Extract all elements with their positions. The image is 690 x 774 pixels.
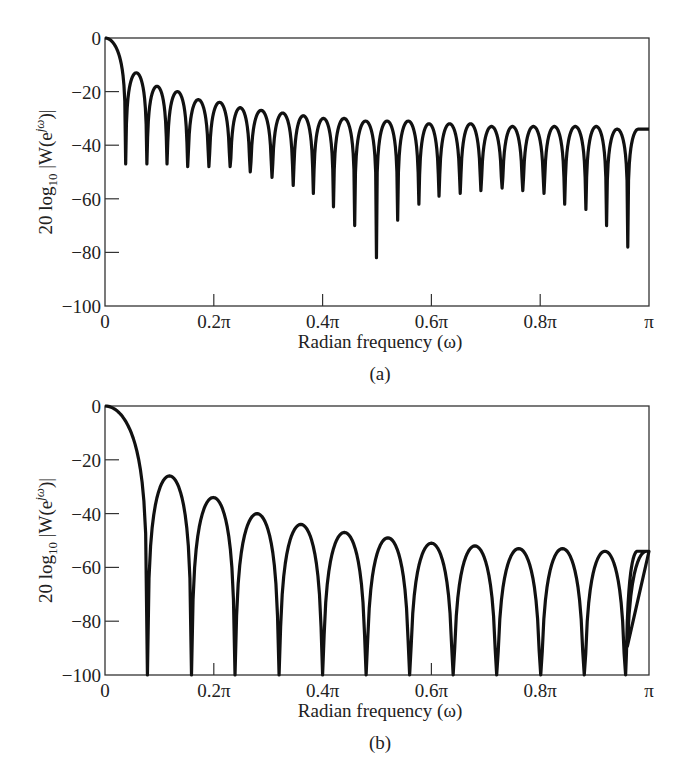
caption-a: (a) <box>369 363 390 385</box>
x-axis-title-a: Radian frequency (ω) <box>298 331 462 353</box>
y-axis-title-a: 20 log10 |W(ejω)| <box>32 109 60 234</box>
x-tick-label: 0.6π <box>415 680 449 701</box>
y-tick-label: −80 <box>71 611 101 632</box>
figure: 20 log10 |W(ejω)| 0−20−40−60−80−100 00.2… <box>0 0 690 774</box>
x-axis-b: 00.2π0.4π0.6π0.8ππ <box>100 663 654 701</box>
x-tick-label: 0 <box>100 311 110 332</box>
y-tick-label: −20 <box>71 82 101 103</box>
x-tick-label: 0 <box>100 680 110 701</box>
y-axis-a: 0−20−40−60−80−100 <box>62 28 119 317</box>
x-tick-label: 0.4π <box>306 680 340 701</box>
x-axis-title-b: Radian frequency (ω) <box>298 700 462 722</box>
y-tick-label: −60 <box>71 557 101 578</box>
chart-panel-b: 20 log10 |W(ejω)| 0−20−40−60−80−100 00.2… <box>32 396 654 754</box>
y-tick-label: −60 <box>71 189 101 210</box>
y-tick-label: −40 <box>71 135 101 156</box>
y-axis-title-text: 20 log10 |W(ejω)| <box>32 109 60 234</box>
x-axis-a: 00.2π0.4π0.6π0.8ππ <box>100 294 654 332</box>
y-tick-label: −100 <box>62 665 101 686</box>
y-tick-label: −80 <box>71 242 101 263</box>
x-tick-label: π <box>644 680 654 701</box>
x-tick-label: 0.6π <box>415 311 449 332</box>
magnitude-curve-b <box>105 406 649 675</box>
x-tick-label: 0.4π <box>306 311 340 332</box>
x-tick-label: 0.2π <box>197 680 231 701</box>
x-tick-label: 0.8π <box>524 311 558 332</box>
y-tick-label: −100 <box>62 296 101 317</box>
y-axis-title-b: 20 log10 |W(ejω)| <box>32 478 60 603</box>
magnitude-curve-a <box>105 38 649 258</box>
y-axis-title-text: 20 log10 |W(ejω)| <box>32 478 60 603</box>
x-tick-label: 0.2π <box>197 311 231 332</box>
chart-panel-a: 20 log10 |W(ejω)| 0−20−40−60−80−100 00.2… <box>32 28 654 385</box>
y-tick-label: 0 <box>92 28 102 49</box>
y-axis-b: 0−20−40−60−80−100 <box>62 396 119 686</box>
y-tick-label: 0 <box>92 396 102 417</box>
x-tick-label: π <box>644 311 654 332</box>
x-tick-label: 0.8π <box>524 680 558 701</box>
y-tick-label: −40 <box>71 504 101 525</box>
y-tick-label: −20 <box>71 450 101 471</box>
caption-b: (b) <box>369 732 391 754</box>
